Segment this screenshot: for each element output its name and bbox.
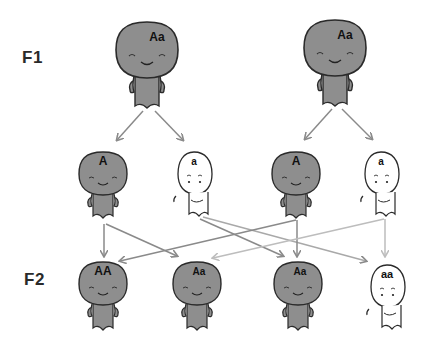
arrow-a1-to-Aa2 bbox=[200, 219, 283, 256]
arrow-a2-to-Aa1 bbox=[213, 219, 384, 258]
gamete-A-left-figure: A bbox=[77, 150, 129, 220]
gamete-a-right-figure: a bbox=[357, 150, 407, 220]
f1-parent-right-figure: Aa bbox=[302, 18, 368, 110]
arrow-A2-to-AA bbox=[120, 220, 296, 261]
arrow-f1-right-to-gamete-a bbox=[342, 109, 372, 139]
arrow-A1-to-Aa1 bbox=[106, 224, 177, 256]
genotype-label: Aa bbox=[184, 266, 214, 277]
allele-label: A bbox=[93, 154, 113, 168]
genotype-label: Aa bbox=[140, 30, 174, 44]
f2-offspring-AA-figure: AA bbox=[77, 260, 129, 332]
f2-offspring-Aa-2-figure: Aa bbox=[272, 260, 324, 332]
gamete-a-left-figure: a bbox=[170, 150, 220, 220]
allele-label: A bbox=[286, 154, 306, 168]
gamete-A-right-figure: A bbox=[270, 150, 322, 220]
genotype-label: Aa bbox=[328, 28, 362, 42]
arrow-f1-left-to-gamete-a bbox=[155, 111, 183, 140]
genotype-label: aa bbox=[375, 268, 399, 280]
f2-offspring-Aa-1-figure: Aa bbox=[171, 260, 223, 332]
genotype-label: Aa bbox=[285, 266, 315, 277]
arrow-f1-right-to-gamete-A bbox=[305, 109, 332, 139]
f2-offspring-aa-figure: aa bbox=[363, 263, 413, 333]
allele-label: a bbox=[374, 156, 388, 167]
f1-parent-left-figure: Aa bbox=[114, 20, 180, 112]
arrow-f1-left-to-gamete-A bbox=[117, 111, 143, 140]
allele-label: a bbox=[187, 156, 201, 167]
genotype-label: AA bbox=[88, 264, 118, 278]
